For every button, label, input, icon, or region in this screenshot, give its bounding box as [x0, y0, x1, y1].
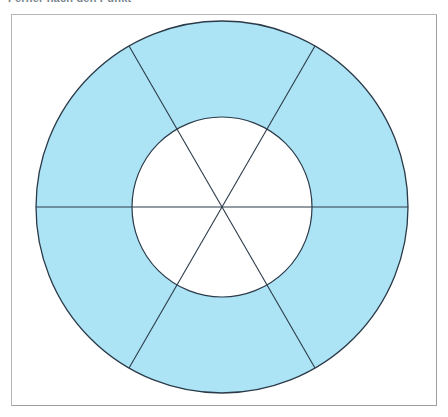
caption-strip: Ferner nach den Punkt — [0, 0, 448, 9]
caption-text: Ferner nach den Punkt — [8, 0, 131, 4]
annulus-diagram — [11, 14, 437, 406]
